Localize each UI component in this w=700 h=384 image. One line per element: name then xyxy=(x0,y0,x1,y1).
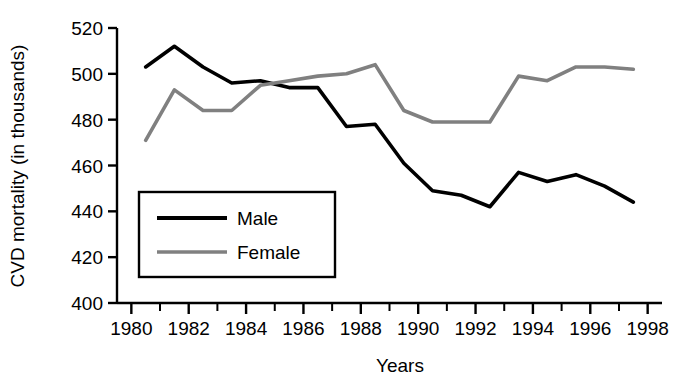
series-line-male xyxy=(146,46,634,206)
legend-box xyxy=(139,192,335,277)
x-axis-tick-label: 1984 xyxy=(225,318,268,339)
y-axis-tick-label: 400 xyxy=(71,293,103,314)
x-axis-tick-label: 1994 xyxy=(512,318,555,339)
x-axis-tick-label: 1996 xyxy=(569,318,611,339)
cvd-mortality-line-chart: 400420440460480500520 198019821984198619… xyxy=(0,0,700,384)
legend-label-female: Female xyxy=(237,242,300,263)
y-axis-tick-label: 440 xyxy=(71,201,103,222)
y-axis-tick-label: 500 xyxy=(71,64,103,85)
x-axis-title: Years xyxy=(376,355,424,376)
y-axis-tick-label: 460 xyxy=(71,156,103,177)
data-series-group xyxy=(146,46,634,206)
x-axis-tick-label: 1982 xyxy=(168,318,210,339)
x-axis: 1980198219841986198819901992199419961998 xyxy=(110,303,669,339)
y-axis: 400420440460480500520 xyxy=(71,18,117,314)
y-axis-tick-label: 520 xyxy=(71,18,103,39)
plot-area: 400420440460480500520 198019821984198619… xyxy=(7,18,669,376)
legend-label-male: Male xyxy=(237,208,278,229)
x-axis-tick-label: 1992 xyxy=(454,318,496,339)
y-axis-title: CVD mortality (in thousands) xyxy=(7,45,28,288)
y-axis-tick-label: 480 xyxy=(71,110,103,131)
x-axis-tick-label: 1986 xyxy=(282,318,324,339)
x-axis-tick-label: 1988 xyxy=(340,318,382,339)
x-axis-tick-label: 1990 xyxy=(397,318,439,339)
x-axis-tick-label: 1998 xyxy=(627,318,669,339)
y-axis-tick-label: 420 xyxy=(71,247,103,268)
x-axis-tick-label: 1980 xyxy=(110,318,152,339)
chart-figure: 400420440460480500520 198019821984198619… xyxy=(0,0,700,384)
chart-legend: MaleFemale xyxy=(139,192,335,277)
